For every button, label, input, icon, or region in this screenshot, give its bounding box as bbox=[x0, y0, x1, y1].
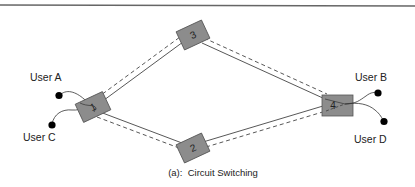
node-4[interactable]: 4 bbox=[322, 95, 353, 116]
link-1-2 bbox=[97, 112, 182, 148]
link-1-3 bbox=[97, 37, 183, 103]
user-c-label: User C bbox=[23, 131, 56, 143]
user-b-label: User B bbox=[355, 71, 387, 83]
user-d-label: User D bbox=[354, 133, 387, 145]
node-2[interactable]: 2 bbox=[176, 133, 210, 163]
figure-caption: (a): Circuit Switching bbox=[168, 167, 258, 178]
user-a-endpoint[interactable] bbox=[55, 92, 62, 99]
user-a-label: User A bbox=[30, 71, 62, 83]
link-3-4 bbox=[202, 38, 327, 99]
user-d-endpoint[interactable] bbox=[380, 118, 387, 125]
circuit-switching-diagram: 3 2 1 4 User A User C User B User D (a):… bbox=[0, 0, 415, 187]
user-b-endpoint[interactable] bbox=[374, 89, 381, 96]
user-c-endpoint[interactable] bbox=[48, 121, 55, 128]
node-3[interactable]: 3 bbox=[176, 20, 210, 50]
top-rule bbox=[0, 5, 415, 6]
link-2-4 bbox=[203, 106, 326, 147]
